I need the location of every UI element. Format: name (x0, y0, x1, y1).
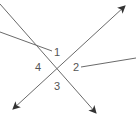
leader-line-1 (0, 32, 52, 51)
line-a (0, 4, 96, 113)
angle-diagram: 1 2 3 4 (0, 0, 136, 118)
angle-label-1: 1 (54, 46, 60, 58)
leader-line-2 (81, 58, 136, 67)
angle-label-2: 2 (73, 61, 79, 73)
angle-label-3: 3 (54, 80, 60, 92)
angle-label-4: 4 (35, 61, 41, 73)
line-b (13, 6, 125, 109)
